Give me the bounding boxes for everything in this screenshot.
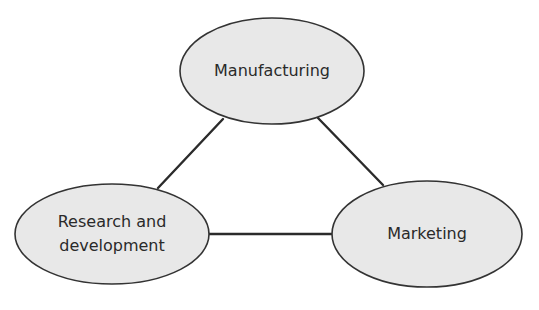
manufacturing-node-label: Manufacturing [180,46,364,96]
connector-research-manufacturing [158,119,223,188]
marketing-node-label: Marketing [332,209,522,259]
connector-manufacturing-marketing [318,118,383,185]
research-node-label: Research and development [15,209,209,259]
